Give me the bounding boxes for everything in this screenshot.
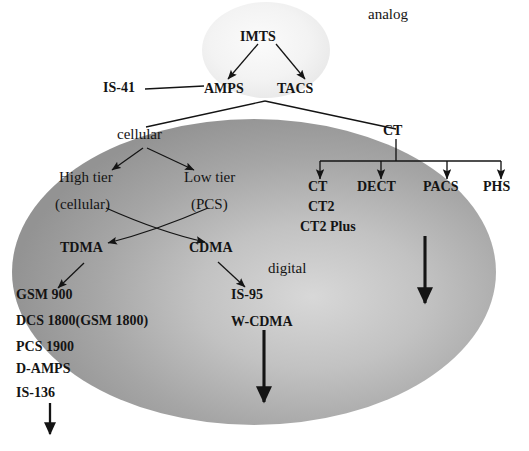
node-ct-leaf[interactable]: CT — [308, 180, 327, 194]
ct-variant-item: CT2 — [308, 200, 334, 214]
ct-variant-item: CT2 Plus — [300, 220, 356, 234]
tdma-standard-item: DCS 1800(GSM 1800) — [16, 314, 148, 328]
node-low-tier[interactable]: Low tier — [184, 170, 235, 185]
node-high-tier-sub: (cellular) — [55, 197, 110, 212]
tdma-standard-item: PCS 1900 — [16, 340, 74, 354]
node-is41[interactable]: IS-41 — [103, 81, 135, 95]
node-imts[interactable]: IMTS — [240, 30, 276, 44]
tdma-standard-item: GSM 900 — [16, 288, 72, 302]
node-cdma[interactable]: CDMA — [189, 241, 233, 255]
node-pacs[interactable]: PACS — [423, 180, 459, 194]
tdma-standard-item: IS-136 — [16, 386, 55, 400]
node-amps[interactable]: AMPS — [204, 82, 244, 96]
node-ct-root[interactable]: CT — [383, 124, 402, 138]
edge-is41-amps — [145, 86, 204, 89]
cdma-standard-item: W-CDMA — [231, 315, 293, 329]
node-high-tier[interactable]: High tier — [59, 170, 113, 185]
digital-region-ellipse — [12, 119, 496, 425]
node-cellular[interactable]: cellular — [117, 127, 162, 142]
analog-region-label: analog — [368, 7, 408, 22]
node-low-tier-sub: (PCS) — [191, 197, 228, 212]
node-tdma[interactable]: TDMA — [60, 241, 103, 255]
node-dect[interactable]: DECT — [357, 180, 396, 194]
diagram-vector-layer — [0, 0, 529, 451]
tdma-standard-item: D-AMPS — [16, 362, 70, 376]
node-tacs[interactable]: TACS — [277, 82, 313, 96]
diagram-canvas: analog IMTS AMPS TACS IS-41 cellular CT … — [0, 0, 529, 451]
node-phs[interactable]: PHS — [483, 180, 510, 194]
digital-region-label: digital — [268, 261, 306, 276]
cdma-standard-item: IS-95 — [231, 288, 263, 302]
